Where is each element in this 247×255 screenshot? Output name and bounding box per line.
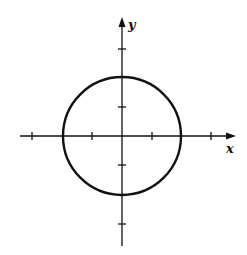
x-axis-arrowhead — [226, 133, 236, 140]
coordinate-diagram: y x — [0, 0, 247, 255]
x-axis-label: x — [225, 141, 234, 156]
y-axis-label: y — [127, 17, 137, 32]
y-axis-arrowhead — [119, 17, 126, 27]
